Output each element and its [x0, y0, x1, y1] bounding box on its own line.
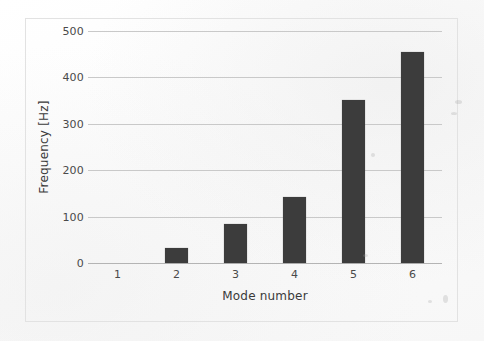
bar — [342, 100, 365, 263]
gridline — [88, 217, 442, 218]
gridline — [88, 31, 442, 32]
bar — [283, 197, 306, 263]
x-axis-title: Mode number — [88, 289, 442, 303]
gridline — [88, 170, 442, 171]
gridline — [88, 77, 442, 78]
y-tick-label: 300 — [62, 117, 84, 130]
x-tick-label: 1 — [114, 268, 121, 281]
x-axis-tick-labels: 123456 — [88, 268, 442, 284]
plot-area — [88, 31, 442, 263]
x-tick-label: 5 — [350, 268, 357, 281]
y-tick-label: 0 — [77, 257, 84, 270]
y-tick-label: 100 — [62, 210, 84, 223]
x-tick-label: 3 — [232, 268, 239, 281]
chart-figure: Frequency [Hz] 0100200300400500 123456 M… — [0, 0, 484, 341]
x-tick-label: 4 — [291, 268, 298, 281]
bar — [401, 52, 424, 263]
bar — [165, 248, 188, 263]
y-axis-tick-labels: 0100200300400500 — [40, 31, 84, 263]
bar — [224, 224, 247, 263]
y-tick-label: 200 — [62, 164, 84, 177]
y-tick-label: 400 — [62, 71, 84, 84]
x-tick-label: 2 — [173, 268, 180, 281]
gridline — [88, 124, 442, 125]
y-tick-label: 500 — [62, 25, 84, 38]
axis-baseline — [88, 263, 442, 264]
x-tick-label: 6 — [409, 268, 416, 281]
